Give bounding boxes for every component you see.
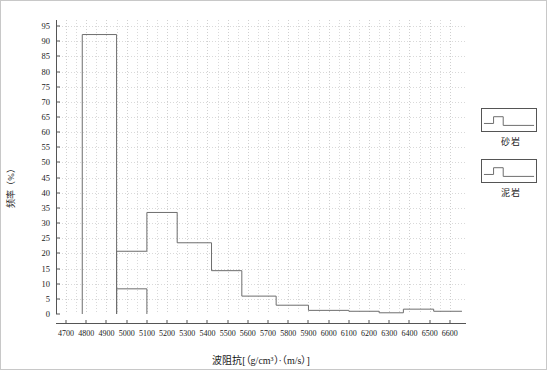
x-tick-mark: [389, 320, 390, 324]
x-tick-label: 4900: [98, 330, 114, 338]
plot-area: 05101520253035404550556065707580859095 4…: [56, 20, 466, 314]
x-tick-mark: [328, 320, 329, 324]
x-tick-mark: [227, 320, 228, 324]
y-tick-label: 25: [42, 234, 57, 243]
series-line: [117, 212, 462, 314]
legend-entry[interactable]: 泥岩: [481, 159, 541, 199]
data-series-group: [56, 20, 466, 314]
x-tick-label: 5900: [300, 330, 316, 338]
chart-legend: 砂岩泥岩: [481, 108, 541, 210]
step-curve-icon: [481, 108, 537, 132]
y-tick-label: 85: [42, 52, 57, 61]
series-line: [82, 35, 116, 314]
legend-label: 泥岩: [481, 186, 541, 199]
y-tick-label: 80: [42, 67, 57, 76]
y-tick-label: 45: [42, 173, 57, 182]
y-tick-label: 15: [42, 264, 57, 273]
x-tick-mark: [126, 320, 127, 324]
legend-label: 砂岩: [481, 135, 541, 148]
x-tick-label: 5500: [220, 330, 236, 338]
y-axis-title: 频率（%）: [4, 164, 17, 208]
x-tick-mark: [409, 320, 410, 324]
chart-page: 频率（%） 0510152025303540455055606570758085…: [0, 0, 548, 371]
x-tick-mark: [369, 320, 370, 324]
legend-entry[interactable]: 砂岩: [481, 108, 541, 148]
y-tick-label: 10: [42, 279, 57, 288]
y-tick-label: 30: [42, 219, 57, 228]
y-tick-label: 20: [42, 249, 57, 258]
y-tick-label: 75: [42, 82, 57, 91]
step-curve-icon: [481, 159, 537, 183]
x-tick-label: 6000: [321, 330, 337, 338]
x-tick-label: 6300: [381, 330, 397, 338]
x-tick-label: 5100: [139, 330, 155, 338]
x-tick-label: 4700: [58, 330, 74, 338]
x-tick-label: 6200: [361, 330, 377, 338]
y-tick-label: 60: [42, 128, 57, 137]
y-tick-label: 70: [42, 98, 57, 107]
y-tick-label: 40: [42, 189, 57, 198]
x-axis-title: 波阻抗[（g/cm³）·（m/s）]: [212, 352, 309, 367]
x-tick-label: 5000: [119, 330, 135, 338]
x-tick-mark: [167, 320, 168, 324]
x-tick-mark: [66, 320, 67, 324]
x-tick-mark: [106, 320, 107, 324]
x-tick-label: 5300: [179, 330, 195, 338]
x-tick-label: 6100: [341, 330, 357, 338]
x-tick-label: 6500: [422, 330, 438, 338]
x-tick-mark: [268, 320, 269, 324]
x-tick-mark: [308, 320, 309, 324]
y-tick-label: 90: [42, 37, 57, 46]
x-tick-mark: [146, 320, 147, 324]
x-tick-mark: [429, 320, 430, 324]
series-line: [117, 289, 147, 314]
x-tick-label: 5700: [260, 330, 276, 338]
x-tick-mark: [187, 320, 188, 324]
y-tick-label: 65: [42, 113, 57, 122]
x-tick-mark: [348, 320, 349, 324]
x-tick-label: 5200: [159, 330, 175, 338]
x-tick-label: 5600: [240, 330, 256, 338]
x-tick-label: 4800: [78, 330, 94, 338]
y-tick-label: 95: [42, 22, 57, 31]
x-tick-mark: [207, 320, 208, 324]
x-tick-mark: [449, 320, 450, 324]
x-tick-label: 6400: [401, 330, 417, 338]
x-tick-mark: [288, 320, 289, 324]
x-tick-label: 5800: [280, 330, 296, 338]
x-tick-label: 5400: [199, 330, 215, 338]
x-axis-line: [56, 323, 466, 324]
y-tick-label: 0: [46, 310, 56, 319]
y-tick-label: 50: [42, 158, 57, 167]
y-tick-label: 55: [42, 143, 57, 152]
y-tick-label: 5: [46, 295, 56, 304]
x-tick-mark: [247, 320, 248, 324]
x-tick-mark: [86, 320, 87, 324]
y-tick-label: 35: [42, 204, 57, 213]
x-tick-label: 6600: [442, 330, 458, 338]
